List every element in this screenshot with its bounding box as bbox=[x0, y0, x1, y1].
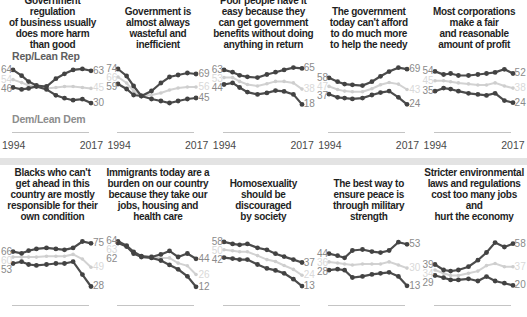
axis-baseline bbox=[223, 132, 300, 133]
panel-title-line: jobs, housing and bbox=[106, 200, 209, 211]
total-end-value: 38 bbox=[304, 84, 316, 94]
rep-dot bbox=[255, 245, 260, 250]
total-dot bbox=[448, 274, 452, 278]
panel-plot: 646346305445 bbox=[0, 60, 105, 112]
total-dot bbox=[186, 85, 190, 89]
rep-dot bbox=[264, 247, 269, 252]
total-dot bbox=[351, 90, 355, 94]
dem-dot bbox=[167, 263, 172, 268]
panel-title: Government isalmost alwayswasteful andin… bbox=[106, 0, 209, 50]
dem-dot bbox=[34, 263, 39, 268]
panel-7: Immigrants today are aburden on our coun… bbox=[105, 165, 210, 317]
total-dot bbox=[168, 256, 172, 260]
rep-dot bbox=[255, 75, 260, 80]
total-dot bbox=[502, 84, 506, 88]
legend-dem-lean-dem: Dem/Lean Dem bbox=[12, 113, 85, 125]
dem-dot bbox=[62, 96, 67, 101]
rep-dot bbox=[125, 74, 130, 79]
total-dot bbox=[71, 85, 75, 89]
dem-dot bbox=[71, 98, 76, 103]
total-dot bbox=[379, 262, 383, 266]
rep-dot bbox=[132, 249, 137, 254]
dem-start-value: 46 bbox=[0, 84, 12, 94]
rep-dot bbox=[335, 253, 340, 258]
total-dot bbox=[81, 257, 85, 261]
panel-title-line: country are mostly bbox=[1, 189, 104, 200]
dem-dot bbox=[396, 95, 401, 100]
rep-end-value: 37 bbox=[304, 258, 316, 268]
rep-dot bbox=[456, 73, 461, 78]
panel-title-line: to do much more bbox=[317, 28, 420, 39]
total-dot bbox=[63, 85, 67, 89]
total-end-value: 37 bbox=[515, 262, 527, 272]
total-dot bbox=[466, 82, 470, 86]
total-line bbox=[435, 81, 513, 88]
rep-dot bbox=[167, 75, 172, 80]
total-dot bbox=[255, 84, 259, 88]
rep-dot bbox=[350, 248, 355, 253]
trend-chart bbox=[316, 233, 421, 295]
total-dot bbox=[132, 89, 136, 93]
rep-dot bbox=[335, 79, 340, 84]
panel-title-line: through military bbox=[317, 200, 420, 211]
total-dot bbox=[493, 81, 497, 85]
panel-title: Blacks who can'tget ahead in thiscountry… bbox=[1, 165, 104, 222]
total-line bbox=[224, 78, 302, 90]
rep-dot bbox=[62, 247, 67, 252]
panel-plot: 586937244743 bbox=[316, 60, 421, 112]
total-end-value: 56 bbox=[198, 82, 210, 92]
dem-dot bbox=[26, 262, 31, 267]
rep-dot bbox=[360, 247, 365, 252]
dem-dot bbox=[237, 85, 242, 90]
panel-title-line: hurt the economy bbox=[423, 211, 526, 222]
panel-title: Government regulationof business usually… bbox=[1, 0, 104, 50]
dem-dot bbox=[281, 89, 286, 94]
dem-dot bbox=[245, 90, 250, 95]
dem-dot bbox=[370, 272, 375, 277]
trend-chart bbox=[211, 233, 316, 295]
total-dot bbox=[291, 81, 295, 85]
total-dot bbox=[291, 268, 295, 272]
panel-title: Stricter environmentallaws and regulatio… bbox=[423, 165, 526, 222]
dem-dot bbox=[456, 278, 461, 283]
dem-dot bbox=[185, 274, 190, 279]
total-dot bbox=[448, 80, 452, 84]
panel-title: Immigrants today are aburden on our coun… bbox=[106, 165, 209, 222]
panel-plot: 636544185338 bbox=[211, 60, 316, 112]
dem-end-value: 18 bbox=[304, 99, 316, 109]
trend-chart bbox=[105, 233, 210, 295]
panel-title-line: inefficient bbox=[106, 39, 209, 50]
dem-dot bbox=[484, 93, 489, 98]
dem-dot bbox=[255, 262, 260, 267]
dem-dot bbox=[291, 277, 296, 282]
panel-title-line: does more harm bbox=[1, 28, 104, 39]
total-dot bbox=[351, 263, 355, 267]
dem-dot bbox=[456, 89, 461, 94]
total-end-value: 30 bbox=[409, 263, 421, 273]
dem-dot bbox=[185, 97, 190, 102]
rep-dot bbox=[264, 72, 269, 77]
dem-dot bbox=[502, 281, 507, 286]
total-dot bbox=[265, 82, 269, 86]
row-divider bbox=[0, 158, 527, 165]
dem-dot bbox=[342, 268, 347, 273]
panel-title: Poor people have iteasy because theycan … bbox=[212, 0, 315, 50]
total-dot bbox=[397, 82, 401, 86]
rep-dot bbox=[291, 65, 296, 70]
panel-title-line: Blacks who can't bbox=[1, 167, 104, 178]
total-dot bbox=[125, 81, 129, 85]
rep-dot bbox=[360, 83, 365, 88]
total-start-value: 60 bbox=[0, 256, 12, 266]
rep-dot bbox=[484, 250, 489, 255]
total-start-value: 63 bbox=[105, 245, 117, 255]
panel-title-line: today can't afford bbox=[317, 17, 420, 28]
dem-dot bbox=[264, 266, 269, 271]
total-end-value: 24 bbox=[304, 270, 316, 280]
dem-dot bbox=[360, 274, 365, 279]
rep-dot bbox=[26, 79, 31, 84]
total-dot bbox=[177, 261, 181, 265]
dem-dot bbox=[167, 101, 172, 106]
rep-dot bbox=[378, 250, 383, 255]
panel-title-line: can get government bbox=[212, 17, 315, 28]
axis-baseline bbox=[328, 132, 405, 133]
